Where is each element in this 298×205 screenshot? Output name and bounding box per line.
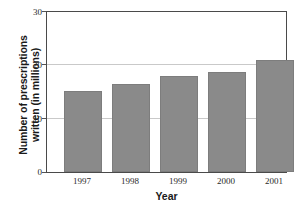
x-axis-tick-labels: 1997 1998 1999 2000 2001 (46, 176, 287, 190)
bar-1999 (160, 76, 198, 172)
y-tick-label-0: 0 (22, 168, 42, 177)
x-tick-label-1998: 1998 (106, 176, 154, 187)
bar-chart-figure: Number of prescriptions written (in mill… (0, 0, 298, 205)
gridline-20 (47, 64, 286, 65)
x-tick-label-2000: 2000 (202, 176, 250, 187)
bar-1998 (112, 84, 150, 172)
x-tick-label-1999: 1999 (154, 176, 202, 187)
x-tick-label-2001: 2001 (250, 176, 298, 187)
x-axis-title: Year (46, 190, 287, 202)
y-axis-tick-labels: 30 20 10 0 (22, 0, 42, 205)
plot-area (46, 11, 287, 173)
y-tick-label-20: 20 (22, 61, 42, 70)
y-tick-label-30: 30 (22, 8, 42, 17)
x-tick-label-1997: 1997 (58, 176, 106, 187)
bar-2000 (208, 72, 246, 172)
bar-1997 (64, 91, 102, 172)
bar-2001 (256, 60, 294, 172)
y-tick-label-10: 10 (22, 115, 42, 124)
